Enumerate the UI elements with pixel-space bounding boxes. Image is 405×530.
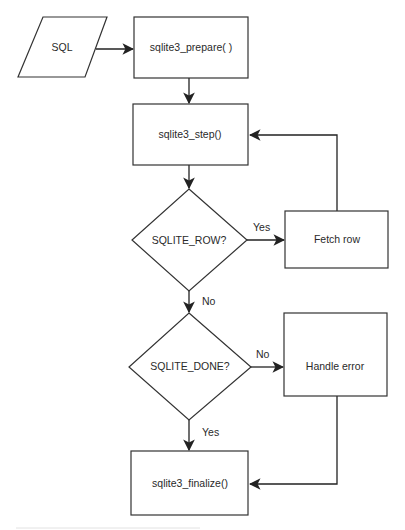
node-sql: SQL — [18, 17, 107, 77]
label-done-yes: Yes — [202, 426, 219, 438]
node-label: sqlite3_finalize() — [152, 477, 228, 489]
node-label: SQL — [51, 41, 72, 53]
node-done-check: SQLITE_DONE? — [129, 313, 251, 420]
flowchart-canvas: Yes No No Yes SQL sqlite3_prepare( ) sql… — [0, 0, 405, 530]
edge-error-to-finalize — [250, 396, 337, 484]
label-row-no: No — [202, 295, 216, 307]
node-error: Handle error — [284, 313, 387, 396]
process-box — [284, 313, 387, 396]
node-label: sqlite3_step() — [158, 128, 221, 140]
node-prepare: sqlite3_prepare( ) — [134, 17, 248, 78]
node-label: Fetch row — [314, 233, 361, 245]
node-row-check: SQLITE_ROW? — [132, 189, 247, 291]
node-step: sqlite3_step() — [133, 104, 248, 165]
label-row-yes: Yes — [253, 221, 270, 233]
node-label: sqlite3_prepare( ) — [150, 41, 232, 53]
node-fetch: Fetch row — [285, 211, 388, 268]
node-finalize: sqlite3_finalize() — [131, 451, 248, 515]
node-label: Handle error — [306, 360, 365, 372]
node-label: SQLITE_DONE? — [150, 360, 230, 372]
node-label: SQLITE_ROW? — [152, 234, 227, 246]
label-done-no: No — [256, 348, 270, 360]
edge-fetch-loop-to-step — [250, 135, 337, 211]
